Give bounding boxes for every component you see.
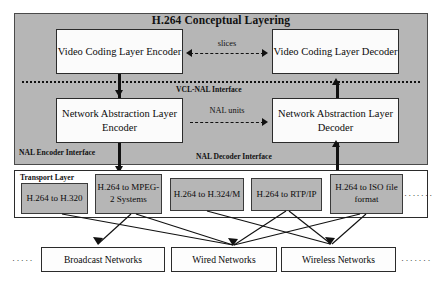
page-title: H.264 Conceptual Layering: [14, 14, 428, 26]
transport-layer-title: Transport Layer: [20, 173, 74, 182]
transport-box-rtp-ip: H.264 to RTP/IP: [251, 178, 322, 211]
vcl-nal-interface-line: [22, 81, 420, 83]
box-video-coding-layer-decoder: Video Coding Layer Decoder: [272, 29, 399, 74]
decoder-arrowhead-up-lower-icon: [332, 140, 340, 147]
diagram-canvas: H.264 Conceptual Layering Video Coding L…: [0, 0, 443, 283]
nal-decoder-interface-label: NAL Decoder Interface: [196, 152, 272, 161]
transport-box-iso-file-format: H.264 to ISO file format: [330, 174, 403, 214]
vcl-nal-interface-label: VCL-NAL Interface: [176, 85, 242, 94]
networks-ellipsis-left: ·····: [12, 255, 34, 265]
box-network-abstraction-layer-encoder: Network Abstraction Layer Encoder: [56, 98, 183, 143]
slices-label: slices: [182, 39, 272, 48]
transport-box-h324m: H.264 to H.324/M: [170, 178, 244, 211]
transport-ellipsis: ·······: [404, 190, 433, 200]
encoder-arrowhead-down-upper-icon: [115, 90, 123, 97]
box-network-abstraction-layer-decoder: Network Abstraction Layer Decoder: [272, 98, 399, 143]
network-box-wireless: Wireless Networks: [281, 247, 396, 272]
transport-box-h320: H.264 to H.320: [21, 183, 88, 214]
nal-units-label: NAL units: [182, 106, 272, 115]
networks-ellipsis-right: ·······: [401, 255, 432, 265]
network-box-wired: Wired Networks: [171, 247, 277, 272]
slices-connector: [190, 53, 264, 54]
transport-box-mpeg2-systems: H.264 to MPEG-2 Systems: [95, 174, 162, 214]
box-video-coding-layer-encoder: Video Coding Layer Encoder: [56, 29, 183, 74]
decoder-arrowhead-up-upper-icon: [332, 78, 340, 85]
decoder-flow-line-lower: [336, 143, 339, 173]
nal-units-connector: [190, 122, 264, 123]
network-box-broadcast: Broadcast Networks: [41, 247, 165, 272]
slices-arrowhead-left-icon: [186, 49, 192, 57]
slices-arrowhead-right-icon: [262, 49, 268, 57]
nal-units-arrowhead-right-icon: [262, 118, 268, 126]
nal-encoder-interface-label: NAL Encoder Interface: [19, 148, 95, 157]
